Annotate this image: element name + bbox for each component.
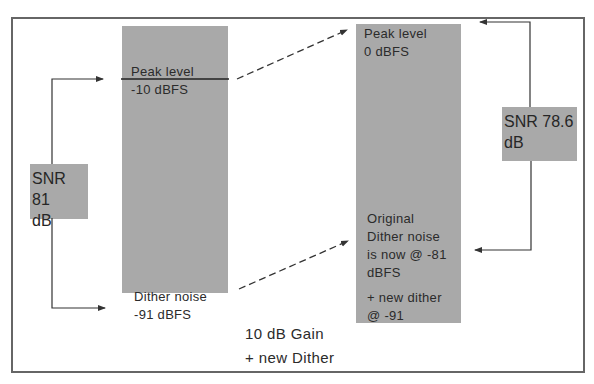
peak-gain-dashed-arrow xyxy=(237,30,347,79)
right-snr-top-arrow xyxy=(480,22,530,107)
right-snr-bottom-arrow xyxy=(475,161,531,250)
noise-gain-dashed-arrow xyxy=(239,241,348,289)
connector-lines xyxy=(0,0,594,384)
left-snr-top-arrow xyxy=(52,79,103,164)
left-snr-bottom-arrow xyxy=(52,218,105,308)
